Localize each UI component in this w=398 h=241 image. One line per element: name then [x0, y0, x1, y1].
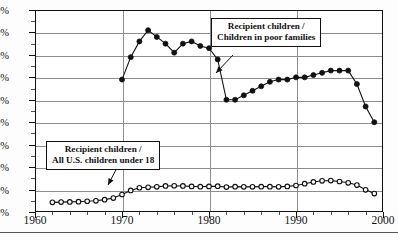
data-point-marker — [250, 185, 255, 190]
data-point-marker — [155, 185, 160, 190]
data-point-marker — [320, 70, 325, 75]
data-point-marker — [268, 184, 273, 189]
data-point-marker — [76, 199, 81, 204]
data-point-marker — [285, 77, 290, 82]
data-point-marker — [294, 75, 299, 80]
data-point-marker — [241, 93, 246, 98]
data-point-marker — [198, 43, 203, 48]
data-point-marker — [233, 97, 238, 102]
data-point-marker — [85, 199, 90, 204]
data-point-marker — [337, 68, 342, 73]
data-point-marker — [59, 200, 64, 205]
data-point-marker — [180, 41, 185, 46]
data-point-marker — [346, 68, 351, 73]
data-point-marker — [320, 179, 325, 184]
annotation-all-children: Recipient children / All U.S. children u… — [46, 141, 160, 170]
data-point-marker — [224, 185, 229, 190]
data-point-marker — [302, 181, 307, 186]
data-point-marker — [154, 34, 159, 39]
annotation-poor-families-line1: Recipient children / — [228, 21, 305, 31]
data-point-marker — [259, 184, 264, 189]
data-point-marker — [50, 200, 55, 205]
data-point-marker — [363, 187, 368, 192]
series-all-children — [50, 178, 377, 204]
data-point-marker — [328, 68, 333, 73]
data-point-marker — [285, 184, 290, 189]
data-point-marker — [189, 184, 194, 189]
data-point-marker — [215, 184, 220, 189]
data-point-marker — [294, 183, 299, 188]
annotation-all-children-line2: All U.S. children under 18 — [52, 155, 154, 166]
data-point-marker — [329, 178, 334, 183]
data-point-marker — [111, 196, 116, 201]
data-point-marker — [189, 39, 194, 44]
data-point-marker — [137, 185, 142, 190]
data-point-marker — [337, 179, 342, 184]
data-point-marker — [128, 188, 133, 193]
data-point-marker — [163, 184, 168, 189]
data-point-marker — [346, 181, 351, 186]
data-point-marker — [302, 75, 307, 80]
data-point-marker — [120, 192, 125, 197]
data-point-marker — [363, 104, 368, 109]
chart-figure: 0%10%20%30%40%50%60%70%80%90% 1960197019… — [0, 0, 398, 241]
annotation-poor-families: Recipient children / Children in poor fa… — [211, 18, 321, 47]
data-point-marker — [128, 55, 133, 60]
data-point-marker — [207, 184, 212, 189]
data-point-marker — [355, 183, 360, 188]
data-point-marker — [172, 183, 177, 188]
data-point-marker — [172, 50, 177, 55]
data-point-marker — [311, 73, 316, 78]
data-point-marker — [267, 79, 272, 84]
data-point-marker — [137, 39, 142, 44]
data-point-marker — [163, 41, 168, 46]
data-point-marker — [102, 197, 107, 202]
data-point-marker — [259, 84, 264, 89]
data-point-marker — [146, 185, 151, 190]
annotation-all-children-line1: Recipient children / — [65, 144, 142, 154]
data-point-marker — [250, 88, 255, 93]
data-point-marker — [354, 82, 359, 87]
data-series-layer — [0, 0, 398, 241]
data-point-marker — [372, 191, 377, 196]
data-point-marker — [68, 200, 73, 205]
data-point-marker — [146, 28, 151, 33]
data-point-marker — [224, 97, 229, 102]
annotation-poor-families-line2: Children in poor families — [217, 32, 315, 43]
data-point-marker — [276, 77, 281, 82]
data-point-marker — [276, 185, 281, 190]
data-point-marker — [372, 120, 377, 125]
data-point-marker — [198, 184, 203, 189]
data-point-marker — [233, 184, 238, 189]
series-line — [52, 181, 374, 203]
data-point-marker — [120, 77, 125, 82]
data-point-marker — [311, 180, 316, 185]
data-point-marker — [242, 185, 247, 190]
data-point-marker — [94, 198, 99, 203]
data-point-marker — [215, 57, 220, 62]
data-point-marker — [181, 184, 186, 189]
